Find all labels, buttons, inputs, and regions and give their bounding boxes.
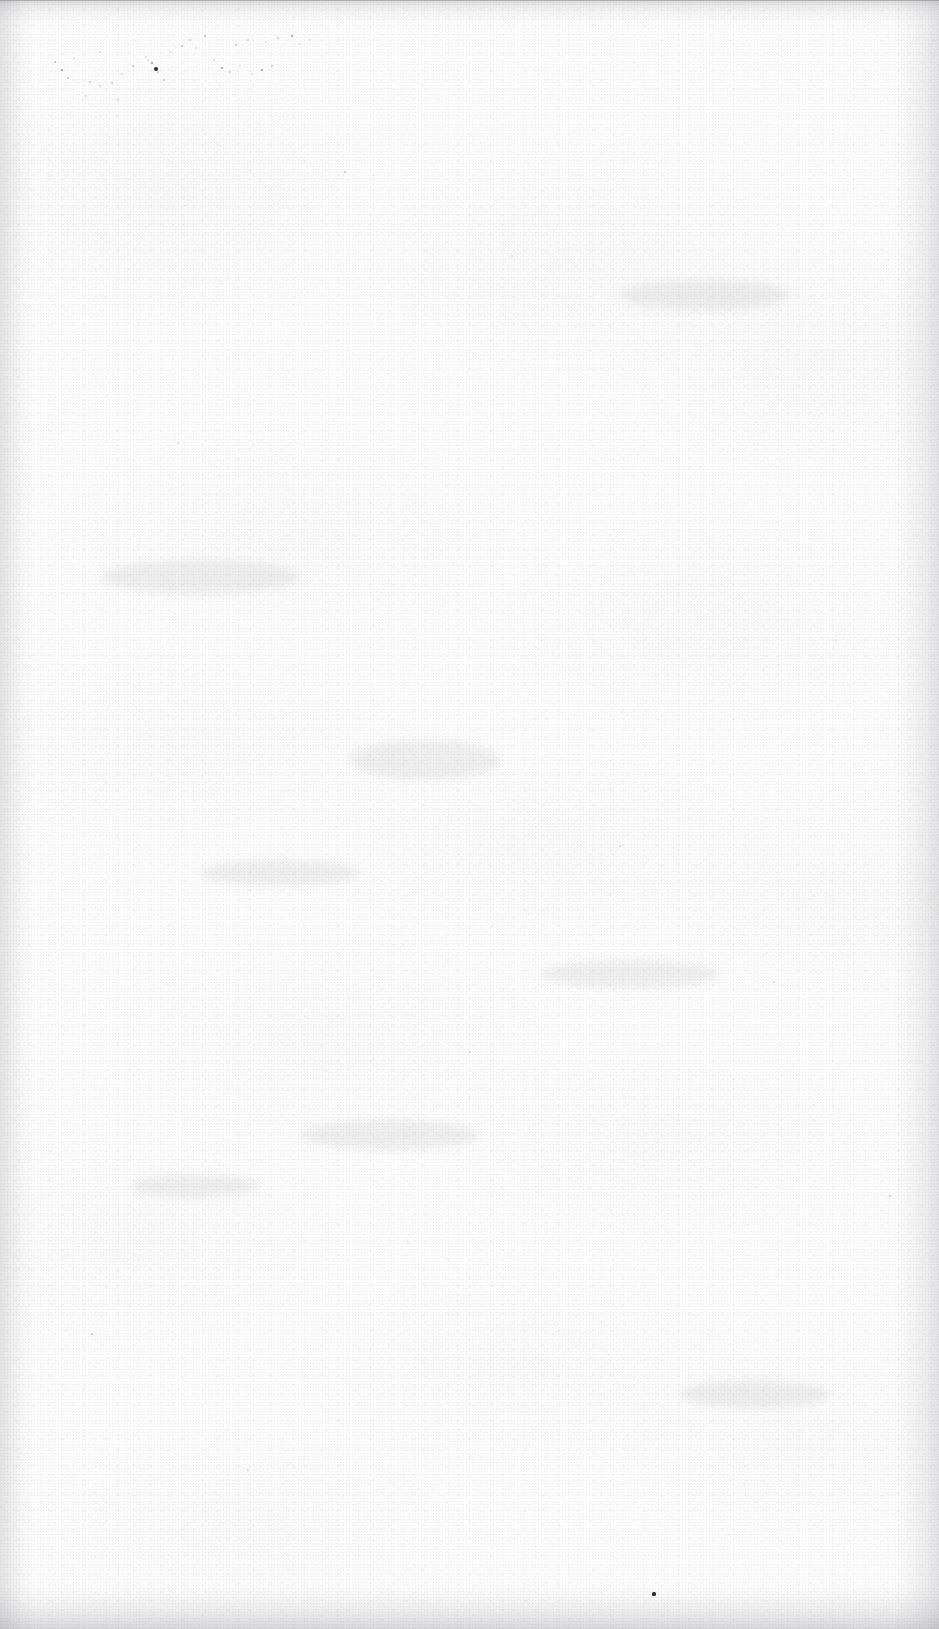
- scan-edge-rule-top: [0, 0, 939, 1]
- scan-edge-shadow-top: [0, 0, 939, 26]
- scanned-page: [0, 0, 939, 1629]
- page-content-area: [0, 0, 939, 1629]
- scan-edge-shadow-left: [0, 0, 34, 1629]
- scan-edge-shadow-right: [893, 0, 939, 1629]
- scan-edge-shadow-bottom: [0, 1585, 939, 1629]
